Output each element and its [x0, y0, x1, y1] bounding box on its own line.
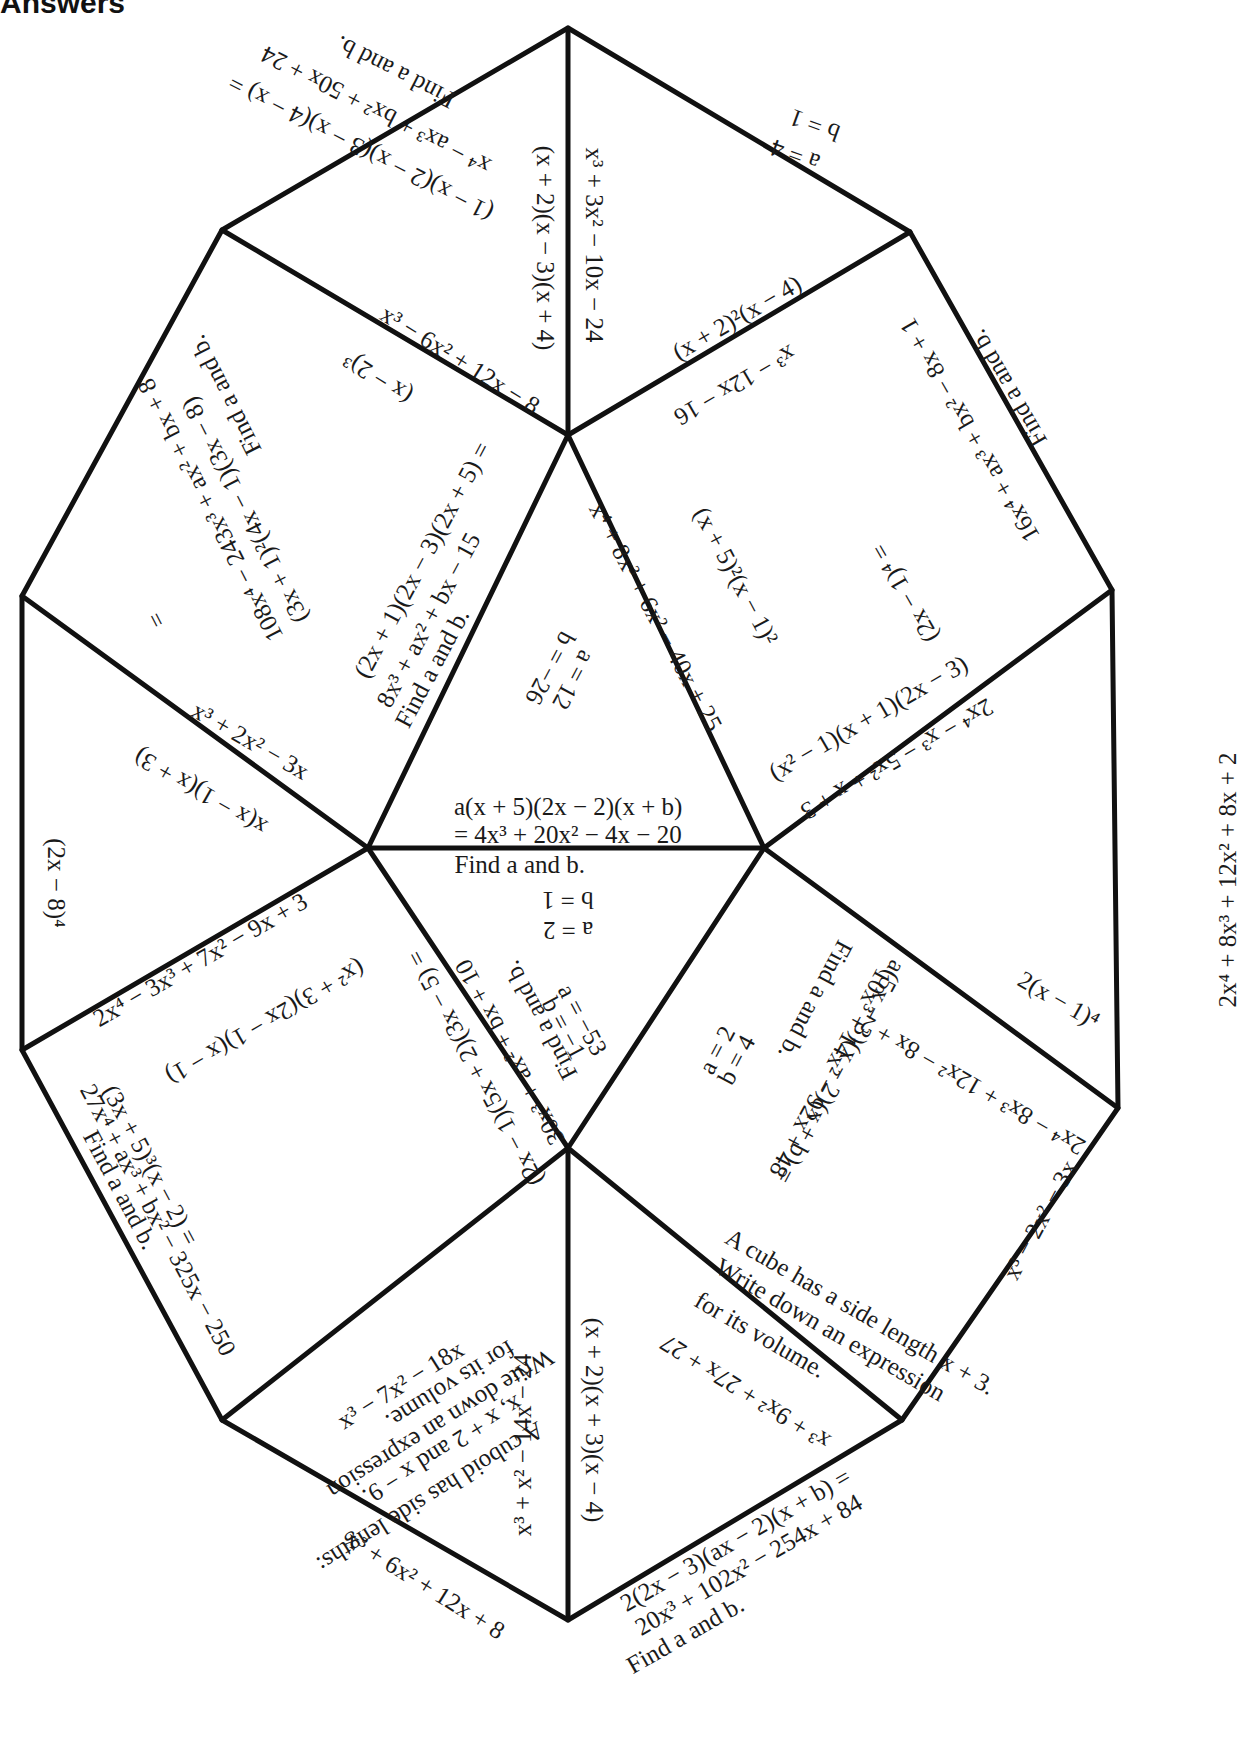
puzzle-label: (x + 2)(x + 3)(x − 4) [580, 1318, 608, 1523]
puzzle-label: x³ + 3x² − 10x − 24 [580, 148, 608, 343]
puzzle-label: x³ + x² − 14x − 24 [509, 1354, 537, 1536]
puzzle-label: Find a and b. [455, 851, 586, 879]
puzzle-label: (x + 2)(x − 3)(x + 4) [531, 146, 559, 351]
puzzle-label: a(x + 5)(2x − 2)(x + b) [454, 793, 682, 821]
puzzle-grid [0, 0, 1260, 1753]
puzzle-label: (2x − 8)⁴ [41, 838, 69, 927]
puzzle-label: 2x⁴ + 8x³ + 12x² + 8x + 2 [1213, 752, 1241, 1007]
puzzle-label: b = 1 [542, 886, 594, 914]
puzzle-label: a = 2 [543, 916, 593, 944]
puzzle-label: = 4x³ + 20x² − 4x − 20 [454, 821, 682, 849]
